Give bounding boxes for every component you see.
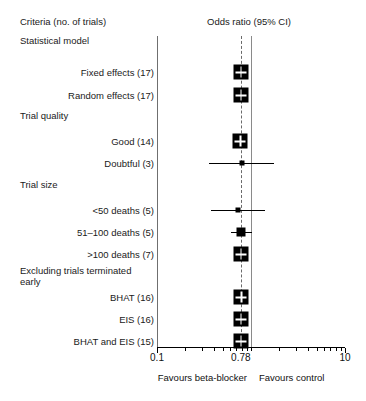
axis-tick-label: 0.78 — [231, 352, 250, 363]
point-estimate-box — [233, 65, 248, 80]
axis-tick-minor — [236, 348, 237, 351]
axis-tick-label: 0.1 — [150, 352, 164, 363]
axis-tick-minor — [308, 348, 309, 351]
axis-tick-minor — [317, 348, 318, 351]
point-estimate-box — [239, 161, 244, 166]
point-estimate-box — [237, 228, 246, 237]
row-item-label: Random effects (17) — [68, 90, 154, 101]
column-header-odds-ratio: Odds ratio (95% CI) — [207, 16, 291, 27]
row-item-label: BHAT (16) — [110, 292, 154, 303]
axis-tick-minor — [336, 348, 337, 351]
row-item-label: <50 deaths (5) — [92, 205, 154, 216]
cross-vertical — [240, 136, 242, 147]
cross-vertical — [241, 292, 243, 303]
row-group-label: Statistical model — [20, 35, 89, 46]
footer-favours-control: Favours control — [259, 372, 324, 383]
cross-vertical — [240, 336, 242, 347]
plot-left-border — [157, 36, 158, 347]
axis-tick-minor — [296, 348, 297, 351]
axis-tick-minor — [202, 348, 203, 351]
axis-tick-minor — [341, 348, 342, 351]
axis-tick-minor — [223, 348, 224, 351]
row-item-label: BHAT and EIS (15) — [74, 336, 154, 347]
row-group-label: Excluding trials terminated early — [20, 265, 150, 287]
axis-tick-minor — [330, 348, 331, 351]
axis-tick-minor — [279, 348, 280, 351]
cross-vertical — [240, 90, 242, 101]
axis-tick-minor — [214, 348, 215, 351]
cross-vertical — [240, 314, 242, 325]
footer-favours-treatment: Favours beta-blocker — [158, 372, 251, 383]
row-item-label: >100 deaths (7) — [87, 249, 154, 260]
row-item-label: EIS (16) — [119, 314, 154, 325]
row-item-label: Fixed effects (17) — [81, 67, 154, 78]
forest-plot-figure: Criteria (no. of trials) Odds ratio (95%… — [0, 0, 366, 401]
row-item-label: Doubtful (3) — [104, 158, 154, 169]
point-estimate-box — [233, 247, 248, 262]
point-estimate-box — [233, 312, 248, 327]
row-group-label: Trial size — [20, 179, 58, 190]
row-item-label: 51–100 deaths (5) — [77, 227, 154, 238]
axis-tick-minor — [247, 348, 248, 351]
axis-tick-minor — [251, 348, 252, 351]
null-effect-line — [251, 36, 252, 347]
axis-tick-label: 10 — [339, 352, 350, 363]
column-header-criteria: Criteria (no. of trials) — [20, 16, 106, 27]
cross-vertical — [240, 249, 242, 260]
point-estimate-box — [236, 208, 241, 213]
axis-tick-minor — [230, 348, 231, 351]
point-estimate-box — [233, 134, 248, 149]
plot-area — [157, 36, 345, 347]
row-group-label: Trial quality — [20, 110, 68, 121]
axis-tick-minor — [324, 348, 325, 351]
cross-vertical — [240, 67, 242, 78]
point-estimate-box — [234, 290, 249, 305]
row-item-label: Good (14) — [111, 136, 154, 147]
axis-tick-minor — [185, 348, 186, 351]
axis-tick-minor — [242, 348, 243, 351]
point-estimate-box — [233, 88, 248, 103]
